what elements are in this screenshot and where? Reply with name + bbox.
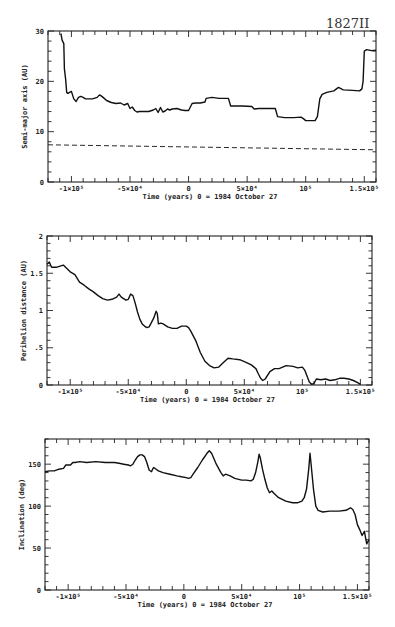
x-axis-title: Time (years) 0 = 1984 October 27: [143, 193, 278, 201]
x-axis-title: Time (years) 0 = 1984 October 27: [138, 601, 273, 609]
x-tick-label: 5×10⁴: [231, 593, 252, 601]
panel-semi-major-axis: 0102030-1×10⁵-5×10⁴05×10⁴10⁵1.5×10⁵Time …: [21, 28, 379, 202]
x-tick-label: 5×10⁴: [234, 388, 255, 396]
panel-perihelion-distance: 0.511.52-1×10⁵-5×10⁴05×10⁴10⁵1.5×10⁵Time…: [20, 233, 375, 405]
figure: 1827II 0102030-1×10⁵-5×10⁴05×10⁴10⁵1.5×1…: [0, 0, 395, 627]
data-line: [47, 262, 360, 384]
x-tick-label: 1.5×10⁵: [346, 388, 376, 396]
y-tick-label: 0: [40, 179, 44, 187]
data-line: [61, 34, 376, 121]
panel-inclination: 050100150-1×10⁵-5×10⁴05×10⁴10⁵1.5×10⁵Tim…: [18, 439, 372, 609]
x-tick-label: 10⁵: [293, 593, 306, 601]
y-tick-label: 2: [39, 233, 43, 241]
x-tick-label: 10⁵: [299, 185, 312, 193]
y-tick-label: 0: [37, 587, 41, 595]
y-tick-label: 20: [36, 78, 44, 86]
x-tick-label: -5×10⁴: [116, 388, 141, 396]
x-tick-label: 0: [186, 185, 190, 193]
x-tick-label: 1.5×10⁵: [350, 185, 380, 193]
y-tick-label: 10: [36, 128, 44, 136]
x-tick-label: -5×10⁴: [117, 185, 142, 193]
x-tick-label: -1×10⁵: [59, 185, 84, 193]
y-tick-label: .5: [35, 344, 43, 352]
x-tick-label: 0: [182, 593, 186, 601]
y-tick-label: 0: [39, 382, 43, 390]
reference-dashed-line: [48, 145, 376, 150]
x-tick-label: -5×10⁴: [113, 593, 138, 601]
y-tick-label: 1.5: [30, 270, 43, 278]
plot-frame: [48, 31, 376, 182]
x-tick-label: -1×10⁵: [58, 388, 83, 396]
y-tick-label: 30: [36, 28, 44, 36]
x-tick-label: 1.5×10⁵: [343, 593, 373, 601]
y-tick-label: 50: [33, 545, 41, 553]
plot-frame: [47, 236, 372, 385]
y-tick-label: 1: [39, 307, 43, 315]
x-axis-title: Time (years) 0 = 1984 October 27: [140, 396, 275, 404]
x-tick-label: 5×10⁴: [237, 185, 258, 193]
x-tick-label: 10⁵: [296, 388, 309, 396]
y-axis-title: Inclination (deg): [18, 479, 26, 551]
y-tick-label: 100: [28, 503, 41, 511]
y-tick-label: 150: [28, 461, 41, 469]
data-line: [45, 451, 369, 544]
y-axis-title: Perihelion distance (AU): [20, 260, 28, 361]
figure-id-label: 1827II: [326, 16, 369, 31]
x-tick-label: 0: [184, 388, 188, 396]
x-tick-label: -1×10⁵: [55, 593, 80, 601]
y-axis-title: Semi-major axis (AU): [21, 64, 29, 148]
